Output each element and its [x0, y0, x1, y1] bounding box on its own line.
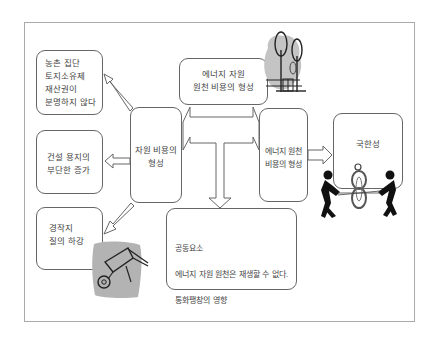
arrow-to-farmland-quality: [104, 203, 134, 234]
double-arrow-connector: [183, 107, 259, 208]
common-factors-line1: 에너지 자원 원천은 재생할 수 없다.: [175, 268, 288, 281]
box-energy-source-cost: 에너지 원천 비용의 형성: [259, 108, 308, 202]
box-text: 자원 비용의 형성: [131, 144, 181, 170]
box-text: 공동요소 에너지 자원 원천은 재생할 수 없다. 통화팽창의 영향: [175, 229, 288, 320]
common-factors-title: 공동요소: [175, 242, 288, 255]
box-rural-collective-land: 농촌 집단 토지소유제 재산권이 분명하지 않다: [36, 50, 103, 115]
box-text: 에너지 자원 원천 비용의 형성: [180, 68, 267, 94]
box-resource-cost: 자원 비용의 형성: [130, 107, 182, 203]
box-construction-land: 건설 용지의 부단한 증가: [36, 130, 103, 194]
arrow-to-limitation: [308, 146, 332, 164]
box-limitation: 국한성: [333, 113, 403, 189]
box-text: 에너지 원천 비용의 형성: [260, 145, 307, 171]
box-common-factors: 공동요소 에너지 자원 원천은 재생할 수 없다. 통화팽창의 영향: [166, 208, 297, 290]
arrow-to-rural-collective: [104, 74, 133, 111]
box-energy-resource-source-cost: 에너지 자원 원천 비용의 형성: [179, 58, 268, 105]
arrow-to-construction-land: [105, 154, 130, 168]
box-farmland-quality: 경작지 질의 하강: [36, 207, 103, 270]
box-text: 건설 용지의 부단한 증가: [47, 151, 90, 177]
common-factors-line2: 통화팽창의 영향: [175, 294, 288, 307]
box-text: 농촌 집단 토지소유제 재산권이 분명하지 않다: [45, 57, 96, 109]
box-text: 국한성: [334, 138, 402, 151]
box-text: 경작지 질의 하강: [49, 222, 84, 248]
